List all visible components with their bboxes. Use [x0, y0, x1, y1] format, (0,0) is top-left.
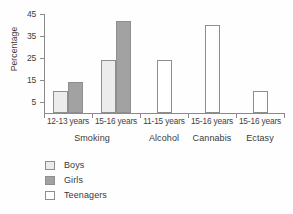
x-group-label: 12-13 years — [44, 116, 92, 126]
y-axis-line — [44, 14, 45, 113]
y-tick-mark — [40, 58, 45, 59]
y-tick-mark — [40, 14, 45, 15]
bar — [68, 82, 83, 113]
bar — [253, 91, 268, 113]
category-label: Smoking — [44, 133, 140, 144]
legend-item: Girls — [45, 173, 107, 188]
y-tick-label: 35 — [0, 32, 36, 41]
category-label: Ectasy — [236, 133, 284, 144]
bar-chart: Percentage 453525155 12-13 years15-16 ye… — [0, 0, 293, 214]
x-group-label: 15-16 years — [236, 116, 284, 126]
legend-label: Boys — [64, 161, 84, 170]
y-tick-label: 45 — [0, 10, 36, 19]
legend-label: Girls — [64, 176, 83, 185]
bar — [53, 91, 68, 113]
bar — [101, 60, 116, 113]
bar — [205, 25, 220, 113]
legend-item: Boys — [45, 158, 107, 173]
x-group-label: 15-16 years — [92, 116, 140, 126]
y-tick-mark — [40, 36, 45, 37]
x-axis-line — [44, 113, 284, 114]
y-tick-label: 25 — [0, 54, 36, 63]
category-label: Alcohol — [140, 133, 188, 144]
legend-swatch — [45, 191, 55, 200]
y-tick-mark — [40, 102, 45, 103]
y-tick-mark — [40, 80, 45, 81]
legend-label: Teenagers — [64, 191, 107, 200]
bar — [157, 60, 172, 113]
x-group-label: 11-15 years — [140, 116, 188, 126]
bar — [116, 21, 131, 113]
category-label: Cannabis — [188, 133, 236, 144]
legend: BoysGirlsTeenagers — [45, 158, 107, 203]
legend-swatch — [45, 176, 55, 185]
x-tick-mark — [284, 113, 285, 118]
y-tick-label: 5 — [0, 98, 36, 107]
x-group-label: 15-16 years — [188, 116, 236, 126]
legend-swatch — [45, 161, 55, 170]
y-tick-label: 15 — [0, 76, 36, 85]
legend-item: Teenagers — [45, 188, 107, 203]
